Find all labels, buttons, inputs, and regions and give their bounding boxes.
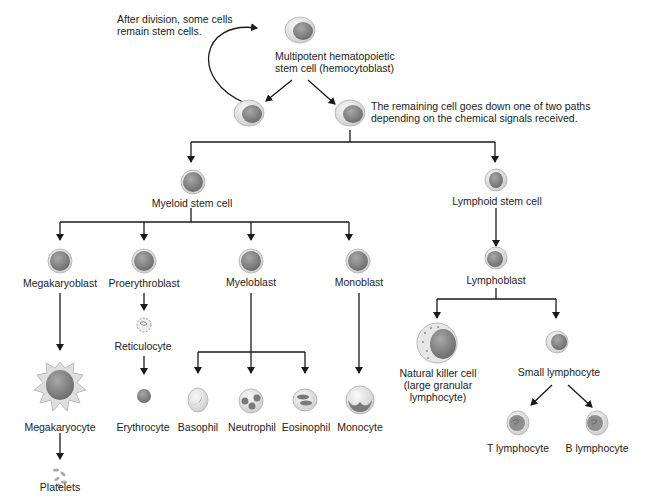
stem-cell-label-line1: Multipotent hematopoietic — [275, 50, 395, 62]
differentiation-text: The remaining cell goes down one of two … — [371, 100, 641, 124]
monocyte-icon — [346, 386, 374, 414]
stem-cell-icon — [285, 17, 315, 43]
monoblast-icon — [346, 249, 370, 273]
t-lymphocyte-icon — [507, 411, 529, 435]
erythrocyte-icon — [137, 389, 151, 403]
myeloid-stem-cell-icon — [181, 170, 205, 194]
basophil-icon — [188, 388, 208, 412]
nk-label-line3: lymphocyte) — [399, 391, 476, 403]
committed-cell-icon — [335, 100, 365, 126]
myeloid-stem-cell-label: Myeloid stem cell — [152, 197, 233, 209]
daughter-stem-cell-icon — [234, 100, 264, 126]
megakaryocyte-icon — [34, 362, 86, 411]
reticulocyte-icon — [137, 318, 151, 332]
lymphoblast-label: Lymphoblast — [466, 274, 525, 286]
nk-label-line2: (large granular — [399, 379, 476, 391]
eosinophil-icon — [293, 389, 317, 411]
eosinophil-label: Eosinophil — [282, 421, 330, 433]
myeloblast-label: Myeloblast — [226, 276, 276, 288]
megakaryoblast-label: Megakaryoblast — [23, 277, 97, 289]
megakaryoblast-icon — [48, 249, 72, 273]
differentiation-note: The remaining cell goes down one of two … — [371, 100, 641, 124]
monocyte-label: Monocyte — [337, 421, 383, 433]
proerythroblast-icon — [132, 249, 156, 273]
neutrophil-icon — [239, 389, 263, 413]
small-lymphocyte-icon — [546, 331, 568, 353]
t-lymphocyte-label: T lymphocyte — [487, 442, 549, 454]
basophil-label: Basophil — [178, 421, 218, 433]
self-renewal-text: After division, some cells remain stem c… — [117, 13, 257, 37]
lymphoid-stem-cell-label: Lymphoid stem cell — [452, 195, 541, 207]
monoblast-label: Monoblast — [335, 276, 383, 288]
neutrophil-label: Neutrophil — [228, 421, 276, 433]
self-renewal-note: After division, some cells remain stem c… — [117, 13, 257, 37]
stem-cell-label: Multipotent hematopoietic stem cell (hem… — [275, 50, 395, 74]
platelets-label: Platelets — [40, 481, 80, 493]
b-lymphocyte-icon — [586, 411, 608, 435]
natural-killer-cell-label: Natural killer cell (large granular lymp… — [399, 367, 476, 403]
erythrocyte-label: Erythrocyte — [116, 421, 169, 433]
reticulocyte-label: Reticulocyte — [114, 340, 171, 352]
lymphoid-stem-cell-icon — [485, 169, 507, 191]
b-lymphocyte-label: B lymphocyte — [565, 442, 628, 454]
megakaryocyte-label: Megakaryocyte — [24, 421, 95, 433]
myeloblast-icon — [239, 249, 263, 273]
small-lymphocyte-label: Small lymphocyte — [518, 366, 600, 378]
lymphoblast-icon — [485, 247, 507, 269]
stem-cell-label-line2: stem cell (hemocytoblast) — [275, 62, 395, 74]
nk-label-line1: Natural killer cell — [399, 367, 476, 379]
natural-killer-cell-icon — [417, 323, 457, 363]
proerythroblast-label: Proerythroblast — [108, 277, 179, 289]
